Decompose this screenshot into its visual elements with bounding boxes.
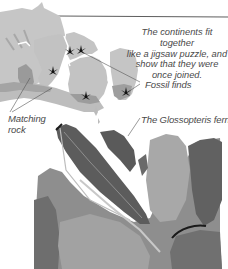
- caption-line-1: The continents fit together: [126, 27, 228, 49]
- glossopteris-fossil-photo: [34, 124, 222, 269]
- caption-continents: The continents fit together like a jigsa…: [126, 27, 228, 81]
- continent-india: [66, 32, 98, 60]
- matching-rock-4: [112, 84, 132, 100]
- header-rule: [56, 16, 228, 17]
- caption-line-2: like a jigsaw puzzle, and: [126, 49, 228, 60]
- label-fossil-finds: Fossil finds: [145, 79, 191, 90]
- continent-africa: [34, 34, 66, 88]
- label-glossopteris-fern: The Glossopteris fern: [141, 114, 228, 125]
- caption-line-3: show that they were: [126, 59, 228, 70]
- figure: The continents fit together like a jigsa…: [0, 0, 228, 269]
- label-matching-rock-line2: rock: [8, 124, 26, 135]
- label-matching-rock-line1: Matching: [8, 113, 46, 124]
